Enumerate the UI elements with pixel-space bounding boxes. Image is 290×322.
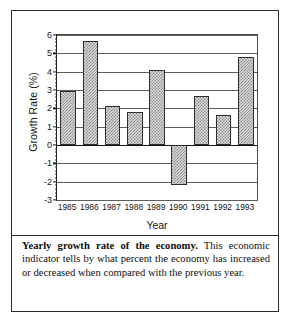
x-tick-label: 1987 (102, 203, 121, 211)
y-tick-label: 4 (47, 67, 52, 76)
bar (194, 96, 210, 146)
x-tick-label: 1985 (58, 203, 77, 211)
y-tick-label: -1 (44, 159, 52, 168)
bars-layer (57, 35, 257, 200)
x-tick-label: 1986 (80, 203, 99, 211)
y-tick-label: 3 (47, 86, 52, 95)
y-tick-label: 5 (47, 49, 52, 58)
y-tick-label: -2 (44, 177, 52, 186)
x-tick-label: 1992 (213, 203, 232, 211)
bar (171, 145, 187, 185)
x-axis-title: Year (56, 219, 258, 231)
bar (216, 115, 232, 145)
gridline (57, 200, 257, 201)
x-tick-label: 1993 (236, 203, 255, 211)
y-tick-label: 6 (47, 31, 52, 40)
x-tick-label: 1989 (147, 203, 166, 211)
y-axis-title: Growth Rate (%) (27, 52, 39, 172)
plot-area: 6543210-1-2-3 (56, 34, 258, 201)
x-tick-label: 1988 (124, 203, 143, 211)
caption-lead: Yearly growth rate of the economy. (22, 240, 198, 251)
bar-chart: Growth Rate (%) 6543210-1-2-3 1985198619… (12, 11, 280, 235)
bar (105, 106, 121, 145)
y-tick-label: -3 (44, 196, 52, 205)
bar (238, 57, 254, 145)
x-axis-tick-labels: 198519861987198819891990199119921993 (56, 203, 258, 217)
bar (83, 41, 99, 145)
bar (149, 70, 165, 145)
figure-frame: Growth Rate (%) 6543210-1-2-3 1985198619… (11, 10, 279, 312)
y-tick-label: 2 (47, 104, 52, 113)
y-tick-label: 1 (47, 122, 52, 131)
x-tick-label: 1991 (191, 203, 210, 211)
caption-divider (12, 235, 278, 236)
x-tick-label: 1990 (169, 203, 188, 211)
y-tick-label: 0 (47, 141, 52, 150)
bar (60, 91, 76, 145)
figure-caption: Yearly growth rate of the economy. This … (22, 239, 270, 279)
bar (127, 112, 143, 145)
